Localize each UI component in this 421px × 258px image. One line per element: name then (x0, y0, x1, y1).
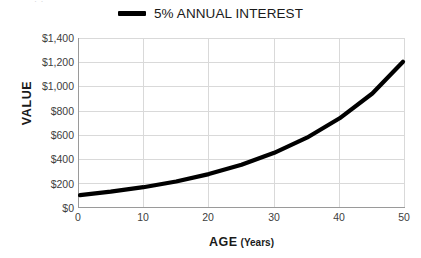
chart-container: · · 5% ANNUAL INTEREST $1,400 $1,200 $1,… (0, 0, 421, 258)
y-axis-title: VALUE (20, 68, 34, 138)
x-tick-label: 40 (319, 211, 359, 223)
series-line-5-percent-annual-interest (80, 62, 403, 195)
x-axis-title-unit: (Years) (241, 237, 274, 248)
x-axis-title-main: AGE (209, 235, 238, 249)
x-tick-label: 50 (384, 211, 421, 223)
x-tick-label: 0 (58, 211, 98, 223)
x-tick-label: 30 (254, 211, 294, 223)
y-tick-label: $1,400 (14, 32, 74, 44)
horizontal-gridlines (78, 39, 405, 184)
legend-label: 5% ANNUAL INTEREST (154, 6, 303, 21)
x-tick-label: 10 (123, 211, 163, 223)
vertical-gridlines (143, 38, 404, 208)
x-axis-title: AGE(Years) (78, 232, 405, 250)
plot-area (78, 38, 405, 208)
plot-svg (78, 38, 405, 208)
y-tick-label: $1,200 (14, 56, 74, 68)
legend-line-swatch (118, 11, 146, 16)
y-tick-label: $200 (14, 178, 74, 190)
x-tick-label: 20 (188, 211, 228, 223)
y-tick-label: $400 (14, 153, 74, 165)
